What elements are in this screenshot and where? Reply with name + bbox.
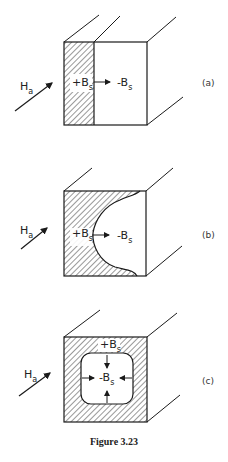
cube-edge (94, 16, 120, 42)
label-ha: Ha (20, 224, 33, 240)
figure-caption: Figure 3.23 (90, 436, 138, 447)
panel-b: +Bs -Bs Ha (b) (20, 168, 215, 276)
cube-edge (147, 97, 183, 125)
panel-a: +Bs -Bs Ha (a) (15, 15, 215, 125)
cube-edge (64, 310, 100, 337)
panel-tag-c: (c) (202, 376, 214, 386)
figure-canvas: +Bs -Bs Ha (a) +Bs -Bs Ha (b) +Bs -Bs (0, 0, 228, 462)
panel-c: +Bs -Bs Ha (c) (19, 310, 214, 422)
panel-tag-a: (a) (202, 78, 215, 88)
cube-edge (64, 168, 92, 191)
cube-edge (146, 246, 182, 276)
label-minus-bs: -Bs (117, 76, 132, 92)
panel-tag-b: (b) (202, 230, 215, 240)
label-ha: Ha (24, 368, 37, 384)
cube-edge (64, 15, 99, 42)
cube-edge (147, 17, 176, 42)
label-ha: Ha (20, 80, 33, 96)
cube-edge (147, 313, 177, 337)
label-minus-bs: -Bs (117, 229, 132, 245)
cube-edge (146, 168, 173, 191)
cube-edge (147, 395, 180, 422)
